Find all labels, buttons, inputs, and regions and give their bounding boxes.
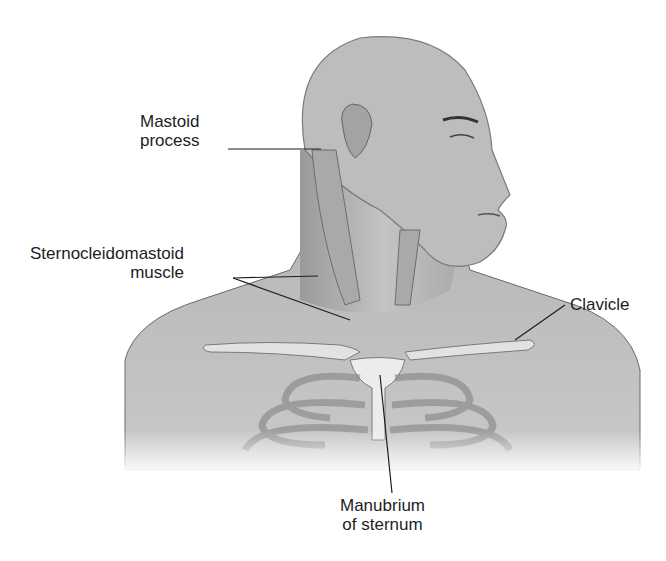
- label-manubrium-of-sternum: Manubrium of sternum: [340, 496, 425, 534]
- anatomy-diagram: Mastoid process Sternocleidomastoid musc…: [0, 0, 666, 561]
- label-manubrium-line1: Manubrium: [340, 496, 425, 515]
- label-scm-line1: Sternocleidomastoid: [30, 244, 184, 263]
- label-mastoid-line2: process: [140, 131, 200, 150]
- label-scm-line2: muscle: [30, 263, 184, 282]
- label-mastoid-process: Mastoid process: [140, 112, 200, 150]
- label-manubrium-line2: of sternum: [340, 515, 425, 534]
- label-clavicle-line1: Clavicle: [570, 295, 630, 314]
- label-sternocleidomastoid-muscle: Sternocleidomastoid muscle: [30, 244, 184, 282]
- label-clavicle: Clavicle: [570, 295, 630, 314]
- label-mastoid-line1: Mastoid: [140, 112, 200, 131]
